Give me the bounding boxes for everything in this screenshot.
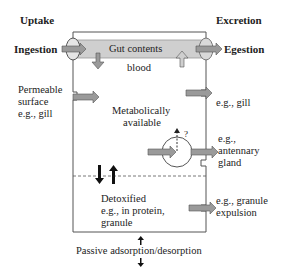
granule-label-1: e.g., granule	[216, 195, 268, 207]
gland-out-arrow	[191, 146, 218, 158]
question-mark: ?	[184, 128, 188, 140]
permeable-label-1: Permeable	[18, 84, 62, 96]
antennary-label-3: gland	[218, 157, 241, 169]
detoxified-label: Detoxified	[101, 193, 146, 205]
egestion-label: Egestion	[224, 43, 264, 55]
passive-down-arrow	[138, 258, 145, 267]
excretion-header: Excretion	[216, 14, 262, 26]
passive-up-arrow	[138, 236, 145, 245]
ingestion-label: Ingestion	[14, 43, 57, 55]
down-arrow-black	[95, 165, 104, 184]
diagram-canvas	[0, 0, 282, 277]
gill-excretion-arrow	[186, 87, 212, 99]
gland-in-arrow	[148, 146, 176, 158]
up-arrow-black	[109, 165, 118, 184]
antennary-label-2: antennary	[218, 145, 259, 157]
granule-label-2: expulsion	[216, 207, 257, 219]
gut-contents-label: Gut contents	[109, 43, 162, 55]
granule-expulsion-arrow	[189, 202, 216, 214]
metabolically-label: Metabolically	[112, 105, 170, 117]
permeable-label-3: e.g., gill	[18, 108, 52, 120]
excretion-gill-label: e.g., gill	[216, 97, 250, 109]
permeable-label-2: surface	[18, 96, 48, 108]
uptake-header: Uptake	[20, 14, 54, 26]
blood-label: blood	[127, 62, 151, 74]
detox-example-label: e.g., in protein,	[101, 205, 165, 217]
detox-granule-label: granule	[101, 217, 133, 229]
available-label: available	[123, 117, 161, 129]
passive-label: Passive adsorption/desorption	[76, 245, 202, 257]
antennary-label-1: e.g.,	[218, 133, 236, 145]
